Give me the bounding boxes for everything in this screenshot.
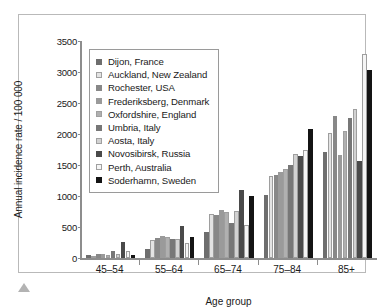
bar: [278, 172, 283, 258]
bar: [111, 251, 116, 258]
bar: [160, 236, 165, 258]
bar: [343, 131, 348, 258]
bar: [353, 109, 358, 258]
bar: [175, 239, 180, 258]
legend-label: Aosta, Italy: [108, 135, 154, 146]
legend-swatch-icon: [96, 85, 102, 91]
legend-swatch-icon: [96, 59, 102, 65]
legend-label: Auckland, New Zealand: [108, 69, 207, 80]
bar: [209, 214, 214, 258]
y-tick-label: 2000: [57, 129, 77, 140]
bar: [244, 225, 249, 258]
bar: [165, 237, 170, 258]
x-group-separator: [258, 259, 259, 265]
legend-label: Soderhamn, Sweden: [108, 175, 196, 186]
legend-item: Soderhamn, Sweden: [96, 174, 209, 187]
legend-label: Dijon, France: [108, 56, 164, 67]
bar: [219, 210, 224, 258]
legend-item: Dijon, France: [96, 55, 209, 68]
bar: [234, 211, 239, 258]
bar: [155, 238, 160, 258]
bar: [239, 190, 244, 258]
bar: [293, 154, 298, 258]
y-tick-label: 3500: [57, 36, 77, 47]
y-tick-label: 1000: [57, 191, 77, 202]
bar: [180, 226, 185, 258]
bar-group: [259, 41, 318, 258]
legend-item: Auckland, New Zealand: [96, 68, 209, 81]
x-group-label: 45–54: [96, 264, 124, 275]
x-axis-line: [80, 258, 377, 260]
bar: [131, 255, 136, 258]
legend-label: Rochester, USA: [108, 82, 175, 93]
bar: [264, 195, 269, 258]
bar: [348, 118, 353, 258]
y-tick-label: 0: [72, 253, 77, 264]
legend-label: Novosibirsk, Russia: [108, 148, 190, 159]
legend-swatch-icon: [96, 98, 102, 104]
legend-item: Perth, Australia: [96, 161, 209, 174]
bar: [185, 243, 190, 259]
legend-label: Frederiksberg, Denmark: [108, 96, 209, 107]
legend-swatch-icon: [96, 72, 102, 78]
x-axis-title: Age group: [80, 296, 377, 307]
legend-swatch-icon: [96, 177, 102, 183]
legend-label: Oxfordshire, England: [108, 109, 196, 120]
bar: [338, 155, 343, 258]
legend-item: Rochester, USA: [96, 81, 209, 94]
bar: [145, 249, 150, 258]
bar: [249, 196, 254, 258]
bar: [269, 176, 274, 258]
legend-item: Umbria, Italy: [96, 121, 209, 134]
bar: [283, 169, 288, 258]
bar: [328, 133, 333, 258]
y-tick-label: 2500: [57, 98, 77, 109]
y-tick-label: 3000: [57, 67, 77, 78]
bar: [86, 255, 91, 258]
legend-item: Aosta, Italy: [96, 134, 209, 147]
legend-swatch-icon: [96, 125, 102, 131]
bar: [106, 255, 111, 258]
y-axis-title: Annual incidence rate / 100 000: [13, 41, 27, 258]
chart-frame: Annual incidence rate / 100 000 05001000…: [18, 14, 366, 273]
chart-legend: Dijon, FranceAuckland, New ZealandRoches…: [89, 49, 219, 193]
bar: [367, 70, 372, 258]
bar: [308, 129, 313, 258]
bar-group: [318, 41, 377, 258]
bar: [357, 161, 362, 258]
y-tick-mark: [78, 258, 81, 259]
bar: [214, 215, 219, 258]
triangle-up-icon: [18, 283, 30, 292]
bar: [150, 240, 155, 258]
x-group-label: 85+: [338, 264, 355, 275]
bar: [116, 254, 121, 258]
bar: [121, 242, 126, 258]
x-group-separator: [198, 259, 199, 265]
legend-swatch-icon: [96, 151, 102, 157]
x-group-separator: [317, 259, 318, 265]
bar: [229, 223, 234, 258]
bar: [170, 239, 175, 258]
bar: [190, 237, 195, 258]
bar: [126, 251, 131, 258]
bar: [91, 256, 96, 258]
x-group-label: 75–84: [273, 264, 301, 275]
y-tick-label: 500: [62, 222, 77, 233]
legend-swatch-icon: [96, 111, 102, 117]
legend-swatch-icon: [96, 164, 102, 170]
y-tick-label: 1500: [57, 160, 77, 171]
legend-label: Perth, Australia: [108, 162, 171, 173]
legend-swatch-icon: [96, 138, 102, 144]
bar: [298, 156, 303, 258]
bar: [303, 150, 308, 259]
x-group-label: 55–64: [155, 264, 183, 275]
bar: [288, 165, 293, 258]
legend-item: Frederiksberg, Denmark: [96, 95, 209, 108]
x-group-separator: [139, 259, 140, 265]
bar: [323, 152, 328, 258]
x-group-label: 65–74: [214, 264, 242, 275]
bar: [274, 175, 279, 258]
bar: [204, 232, 209, 258]
bar: [101, 254, 106, 258]
